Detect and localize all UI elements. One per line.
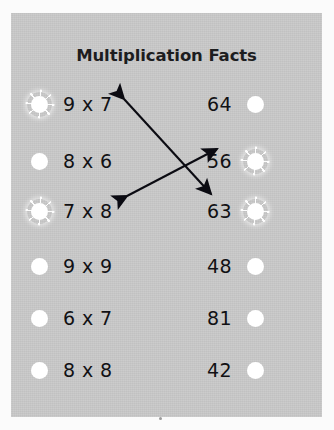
bubble-right-selected-icon[interactable] (247, 153, 264, 170)
bubble-left-icon[interactable] (31, 258, 48, 275)
match-right-label: 42 (207, 359, 232, 381)
match-left-label: 9 x 7 (63, 93, 113, 115)
match-option-right[interactable]: 42 (207, 353, 319, 387)
bubble-right-icon[interactable] (247, 258, 264, 275)
match-right-label: 64 (207, 93, 232, 115)
match-right-label: 48 (207, 255, 232, 277)
match-row: 7 x 8 63 (11, 194, 322, 228)
match-option-right[interactable]: 63 (207, 194, 319, 228)
paper-speck (159, 417, 162, 420)
bubble-right-icon[interactable] (247, 96, 264, 113)
bubble-left-selected-icon[interactable] (31, 203, 48, 220)
match-row: 8 x 8 42 (11, 353, 322, 387)
matching-activity-panel: Multiplication Facts 9 x 7 64 8 x 6 56 (11, 13, 322, 417)
match-row: 6 x 7 81 (11, 301, 322, 335)
match-option-left[interactable]: 7 x 8 (31, 194, 161, 228)
match-option-left[interactable]: 9 x 9 (31, 249, 161, 283)
match-right-label: 81 (207, 307, 232, 329)
match-option-left[interactable]: 8 x 6 (31, 144, 161, 178)
match-option-left[interactable]: 6 x 7 (31, 301, 161, 335)
match-right-label: 63 (207, 200, 232, 222)
match-option-right[interactable]: 56 (207, 144, 319, 178)
match-option-right[interactable]: 64 (207, 87, 319, 121)
match-left-label: 6 x 7 (63, 307, 113, 329)
match-left-label: 8 x 6 (63, 150, 113, 172)
bubble-left-icon[interactable] (31, 362, 48, 379)
bubble-right-selected-icon[interactable] (247, 203, 264, 220)
match-row: 9 x 9 48 (11, 249, 322, 283)
match-left-label: 9 x 9 (63, 255, 113, 277)
page-title: Multiplication Facts (11, 46, 322, 65)
bubble-left-icon[interactable] (31, 310, 48, 327)
bubble-left-icon[interactable] (31, 153, 48, 170)
match-option-left[interactable]: 9 x 7 (31, 87, 161, 121)
match-option-right[interactable]: 48 (207, 249, 319, 283)
match-option-left[interactable]: 8 x 8 (31, 353, 161, 387)
match-right-label: 56 (207, 150, 232, 172)
match-left-label: 7 x 8 (63, 200, 113, 222)
bubble-right-icon[interactable] (247, 310, 264, 327)
worksheet-screen: Multiplication Facts 9 x 7 64 8 x 6 56 (0, 0, 334, 430)
bubble-right-icon[interactable] (247, 362, 264, 379)
match-row: 8 x 6 56 (11, 144, 322, 178)
bubble-left-selected-icon[interactable] (31, 96, 48, 113)
match-option-right[interactable]: 81 (207, 301, 319, 335)
match-left-label: 8 x 8 (63, 359, 113, 381)
match-row: 9 x 7 64 (11, 87, 322, 121)
